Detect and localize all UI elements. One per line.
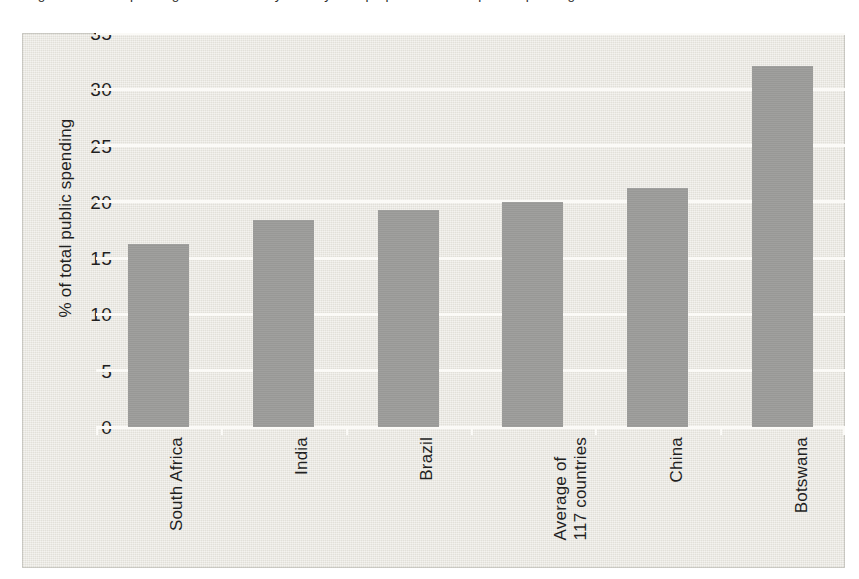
bar-botswana[interactable] [752, 66, 813, 427]
gridline-10 [96, 313, 845, 316]
gridline-35 [96, 33, 845, 35]
x-label-line: India [292, 437, 311, 475]
x-axis-label-india: India [292, 437, 311, 475]
x-label-line: 117 countries [570, 437, 590, 540]
x-label-line: Botswana [792, 437, 811, 513]
x-axis-tick-4 [595, 428, 597, 435]
chart-frame: % of total public spending 0510152025303… [22, 33, 845, 568]
x-axis-tick-0 [96, 428, 98, 435]
plot-area [96, 33, 845, 427]
gridline-30 [96, 88, 845, 91]
x-label-line: Average of [551, 437, 571, 540]
figure-caption-text: Figure 1 Public spending on education by… [26, 0, 575, 2]
x-axis-tick-3 [471, 428, 473, 435]
bar-india[interactable] [253, 220, 314, 427]
x-axis-tick-2 [346, 428, 348, 435]
x-label-line: Brazil [417, 437, 436, 481]
x-axis-label-brazil: Brazil [417, 437, 436, 481]
x-label-line: China [667, 437, 686, 482]
gridline-5 [96, 369, 845, 372]
bar-average-of-117-countries[interactable] [502, 202, 563, 427]
x-axis-label-average-of-117-countries: Average of117 countries [551, 437, 590, 540]
bar-china[interactable] [627, 188, 688, 427]
bar-brazil[interactable] [378, 210, 439, 427]
x-axis-label-south-africa: South Africa [167, 437, 186, 531]
x-axis-tick-1 [221, 428, 223, 435]
gridline-25 [96, 144, 845, 147]
x-axis-tick-5 [720, 428, 722, 435]
figure-caption-strip: Figure 1 Public spending on education by… [0, 0, 859, 14]
x-axis-label-botswana: Botswana [792, 437, 811, 513]
gridline-15 [96, 257, 845, 260]
x-axis-tick-6 [843, 428, 845, 435]
x-axis-label-china: China [667, 437, 686, 482]
bar-south-africa[interactable] [128, 244, 189, 427]
gridline-20 [96, 200, 845, 203]
x-label-line: South Africa [167, 437, 186, 531]
